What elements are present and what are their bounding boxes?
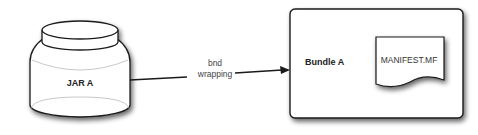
edge-label: bnd wrapping [185, 58, 245, 80]
edge-label-line1: bnd [185, 58, 245, 69]
bundle-a-label: Bundle A [305, 57, 365, 67]
jar-a-node [30, 21, 130, 117]
edge-label-line2: wrapping [185, 69, 245, 80]
manifest-label: MANIFEST.MF [376, 55, 442, 65]
jar-a-label: JAR A [50, 78, 110, 88]
arrowhead-icon [280, 66, 290, 74]
